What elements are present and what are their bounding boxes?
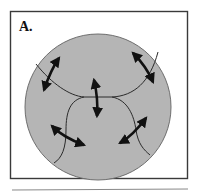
next-panel-edge <box>12 189 188 190</box>
diagram-figure: A. <box>0 0 197 191</box>
panel-label: A. <box>19 19 33 34</box>
